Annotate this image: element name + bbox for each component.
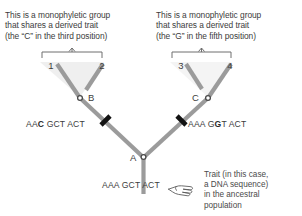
trait-caption: Trait (in this case, a DNA sequence) in … — [204, 170, 268, 211]
sequence-ancestral: AAA GCT ACT — [102, 180, 160, 190]
pointing-hand-left-icon — [166, 181, 196, 199]
left-clade-bracket — [42, 48, 102, 58]
sequence-left-post: GCT ACT — [44, 119, 85, 129]
node-label-a: A — [130, 152, 136, 163]
trait-caption-line1: Trait (in this case, — [204, 170, 268, 180]
figure-canvas: This is a monophyletic group that shares… — [0, 0, 302, 216]
node-label-c: C — [192, 92, 199, 103]
branch-b-to-a — [80, 98, 143, 157]
trait-caption-line4: population — [204, 201, 268, 211]
node-c-dot — [206, 96, 211, 101]
node-b-dot — [78, 96, 83, 101]
sequence-right-clade: AAA GGT ACT — [188, 119, 246, 129]
sequence-right-pre: AAA G — [188, 119, 215, 129]
tip-label-2: 2 — [95, 60, 109, 71]
tip-label-3: 3 — [174, 60, 188, 71]
trait-caption-line3: in the ancestral — [204, 190, 268, 200]
tip-label-4: 4 — [223, 60, 237, 71]
node-label-b: B — [88, 92, 94, 103]
tip-label-1: 1 — [44, 60, 58, 71]
right-clade-bracket — [172, 48, 231, 58]
sequence-left-clade: AAC GCT ACT — [26, 119, 85, 129]
sequence-right-post: T ACT — [221, 119, 246, 129]
node-a-dot — [141, 155, 146, 160]
trait-caption-line2: a DNA sequence) — [204, 180, 268, 190]
sequence-left-pre: AA — [26, 119, 38, 129]
